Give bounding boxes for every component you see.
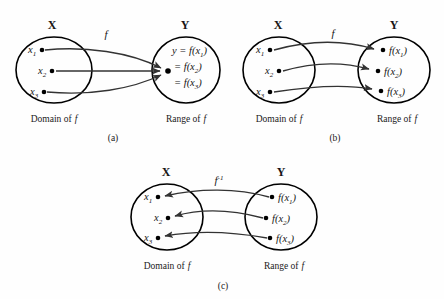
panel-b-domain-label-3: x3 — [255, 86, 265, 100]
panel-a-range-line-1: y = f(x1) — [171, 45, 208, 59]
panel-b-domain-dot-3 — [268, 90, 273, 95]
panel-b-arrow-2 — [283, 64, 369, 71]
panel-b-domain-dot-1 — [268, 48, 273, 53]
panel-a-map-label: f — [104, 28, 109, 40]
panel-c-range-label-2: f(x2) — [272, 213, 291, 227]
panel-a-domain-set-label: X — [48, 18, 57, 32]
panel-b-caption: (b) — [329, 133, 340, 144]
panel-c-caption: (c) — [218, 281, 229, 292]
panel-c-domain-label-1: x1 — [143, 191, 152, 205]
panel-b-range-label-3: f(x3) — [387, 86, 406, 100]
panel-b-range-caption: Range off — [377, 114, 419, 124]
panel-b-range-dot-2 — [376, 69, 381, 74]
panel-c: X Y x1 x2 x3 f-1 f(x1) f(x2) f(x3) Domai… — [111, 150, 333, 299]
panel-b-range-label-1: f(x1) — [389, 45, 408, 59]
panel-b-range-set-label: Y — [390, 18, 399, 32]
panel-b-map-label: f — [331, 27, 336, 39]
panel-c-domain-set-label: X — [162, 165, 171, 179]
panel-a-domain-dot-1 — [40, 48, 45, 53]
panel-b-arrow-1 — [274, 42, 374, 50]
panel-c-domain-caption: Domain off — [144, 261, 192, 271]
function-mapping-figure: X Y x1 x2 x3 f y = f(x1) = f(x2) = f(x3)… — [0, 0, 444, 299]
panel-c-range-caption: Range off — [264, 261, 306, 271]
panel-b-domain-label-2: x2 — [264, 65, 274, 79]
panel-b-domain-set-label: X — [274, 18, 283, 32]
panel-a-range-dot — [165, 68, 171, 74]
panel-c-domain-dot-3 — [156, 236, 161, 241]
panel-b-domain-dot-2 — [277, 69, 282, 74]
panel-b-range-label-2: f(x2) — [384, 66, 403, 80]
panel-a-arrow-3 — [47, 75, 161, 93]
panel-c-range-set-label: Y — [277, 165, 286, 179]
panel-b-range-dot-1 — [381, 48, 386, 53]
panel-c-domain-dot-1 — [156, 195, 161, 200]
panel-c-map-label: f-1 — [215, 174, 224, 186]
panel-a-domain-caption: Domain off — [31, 114, 79, 124]
panel-c-domain-label-2: x2 — [153, 212, 163, 226]
panel-b-range-dot-3 — [379, 89, 384, 94]
panel-b-domain-caption: Domain off — [256, 114, 304, 124]
panel-c-range-dot-3 — [268, 236, 273, 241]
panel-c-range-dot-1 — [270, 195, 275, 200]
panel-a-domain-label-3: x3 — [29, 86, 39, 100]
panel-c-domain-dot-2 — [166, 216, 171, 221]
panel-a-domain-dot-3 — [42, 90, 47, 95]
panel-a-domain-label-2: x2 — [37, 65, 47, 79]
panel-a-range-line-2: = f(x2) — [174, 61, 202, 75]
panel-a-domain-dot-2 — [50, 69, 55, 74]
panel-c-arrow-2 — [175, 211, 263, 218]
panel-a-range-caption: Range off — [166, 114, 208, 124]
panel-b-domain-label-1: x1 — [255, 44, 264, 58]
panel-c-range-dot-2 — [264, 216, 269, 221]
panel-a-caption: (a) — [108, 133, 119, 144]
panel-a-range-set-label: Y — [181, 18, 190, 32]
panel-a-domain-label-1: x1 — [27, 44, 36, 58]
panel-a-range-line-3: = f(x3) — [174, 77, 202, 91]
panel-b: X Y x1 x2 x3 f f(x1) f(x2) f(x3) Domain … — [222, 0, 444, 150]
panel-c-range-label-1: f(x1) — [278, 192, 297, 206]
panel-a-arrow-1 — [45, 49, 161, 68]
panel-a: X Y x1 x2 x3 f y = f(x1) = f(x2) = f(x3)… — [0, 0, 222, 150]
panel-c-range-label-3: f(x3) — [276, 233, 295, 247]
panel-b-arrow-3 — [274, 86, 372, 92]
